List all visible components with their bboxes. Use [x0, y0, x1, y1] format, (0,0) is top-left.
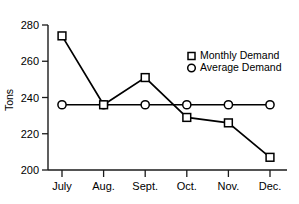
- x-tick-label-aug: Aug.: [92, 180, 115, 192]
- chart-container: 280 260 240 220 200 Tons July Aug. Sept.…: [0, 0, 299, 204]
- y-tick-label-200: 200: [21, 164, 39, 176]
- data-point-july-average: [58, 101, 66, 109]
- data-point-nov-average: [224, 101, 232, 109]
- chart-legend: Monthly Demand Average Demand: [188, 49, 282, 73]
- y-tick-label-240: 240: [21, 92, 39, 104]
- x-tick-label-nov: Nov.: [217, 180, 239, 192]
- y-tick-label-220: 220: [21, 128, 39, 140]
- data-point-dec-monthly: [266, 153, 274, 161]
- circle-marker-icon: [188, 64, 196, 72]
- data-point-sept-monthly: [141, 74, 149, 82]
- y-axis-title: Tons: [3, 89, 15, 111]
- y-tick-label-280: 280: [21, 19, 39, 31]
- square-marker-icon: [188, 53, 195, 60]
- legend-label-average-demand: Average Demand: [200, 61, 282, 73]
- data-point-july-monthly: [58, 32, 66, 40]
- y-axis-ticks: [42, 25, 48, 170]
- data-point-aug-monthly: [100, 101, 108, 109]
- x-tick-label-july: July: [52, 180, 72, 192]
- legend-label-monthly-demand: Monthly Demand: [200, 49, 280, 61]
- data-point-oct-monthly: [183, 114, 191, 122]
- x-axis-ticks: [62, 170, 270, 177]
- x-axis-tick-labels: July Aug. Sept. Oct. Nov. Dec.: [52, 180, 281, 192]
- y-axis-tick-labels: 280 260 240 220 200: [21, 19, 39, 176]
- data-point-nov-monthly: [225, 119, 233, 127]
- data-point-oct-average: [183, 101, 191, 109]
- x-tick-label-oct: Oct.: [177, 180, 197, 192]
- demand-line-chart: 280 260 240 220 200 Tons July Aug. Sept.…: [0, 0, 299, 204]
- x-tick-label-dec: Dec.: [259, 180, 282, 192]
- y-tick-label-260: 260: [21, 55, 39, 67]
- data-point-sept-average: [141, 101, 149, 109]
- x-tick-label-sept: Sept.: [132, 180, 158, 192]
- data-point-dec-average: [266, 101, 274, 109]
